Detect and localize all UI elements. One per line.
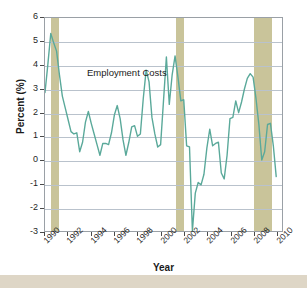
x-axis-title: Year bbox=[44, 262, 283, 273]
y-tick-label: -2 bbox=[0, 203, 38, 212]
y-tick-label: -1 bbox=[0, 179, 38, 188]
y-tick-mark bbox=[40, 89, 44, 90]
y-tick-label: -3 bbox=[0, 227, 38, 236]
bottom-decorative-strip bbox=[0, 275, 307, 288]
y-tick-mark bbox=[40, 160, 44, 161]
y-tick-mark bbox=[40, 208, 44, 209]
y-axis-title: Percent (%) bbox=[15, 47, 26, 167]
y-tick-mark bbox=[40, 184, 44, 185]
y-tick-mark bbox=[40, 17, 44, 18]
y-tick-mark bbox=[40, 113, 44, 114]
y-tick-mark bbox=[40, 65, 44, 66]
y-tick-mark bbox=[40, 136, 44, 137]
top-caption bbox=[150, 0, 305, 5]
y-tick-mark bbox=[40, 41, 44, 42]
y-tick-label: 5 bbox=[0, 36, 38, 45]
y-tick-label: 6 bbox=[0, 12, 38, 21]
series-annotation-label: Employment Costs bbox=[87, 67, 167, 78]
series-line-employment-costs bbox=[45, 18, 282, 231]
chart-figure: Employment Costs 6543210-1-2-3 199019921… bbox=[0, 0, 307, 288]
plot-area: Employment Costs bbox=[44, 17, 283, 232]
